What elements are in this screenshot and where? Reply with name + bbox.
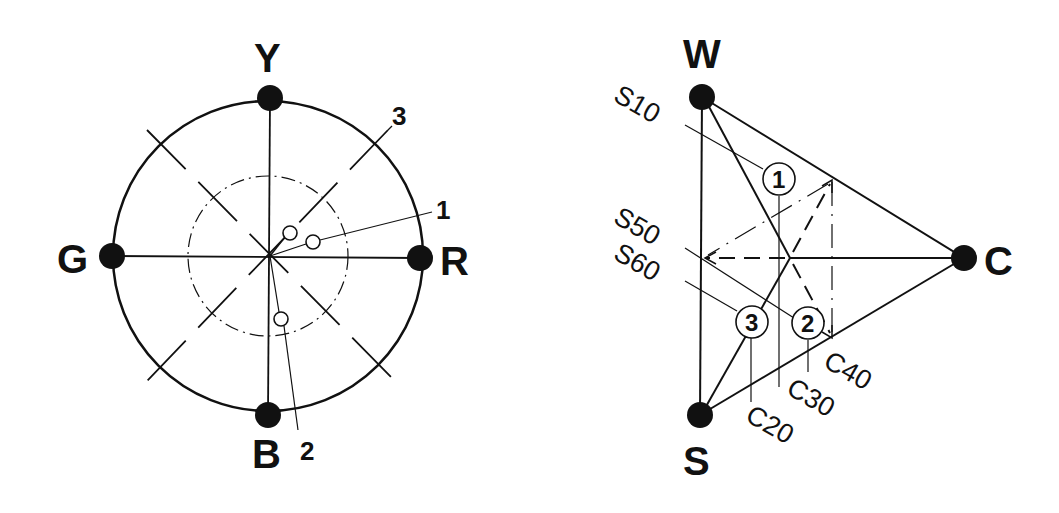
blackness-label-s10: S10 bbox=[609, 79, 666, 129]
ncs-diagram: Y G R B 1 2 3 bbox=[0, 0, 1059, 513]
point-label-3: 3 bbox=[392, 101, 406, 131]
pole-label-g: G bbox=[57, 237, 88, 281]
blackness-label-s50: S50 bbox=[609, 201, 666, 251]
vertex-label-c: C bbox=[984, 239, 1013, 283]
chromaticness-label-c40: C40 bbox=[819, 345, 877, 396]
pole-label-b: B bbox=[252, 432, 281, 476]
sample-point-2 bbox=[274, 312, 288, 326]
hue-circle bbox=[112, 98, 432, 430]
sample-point-1 bbox=[306, 235, 320, 249]
sample-point-a bbox=[283, 226, 297, 240]
chromaticness-label-c30: C30 bbox=[782, 372, 840, 423]
vertex-dot-c bbox=[951, 245, 977, 271]
vertex-label-s: S bbox=[683, 439, 710, 483]
point-label-2: 2 bbox=[300, 436, 314, 466]
vertex-dot-s bbox=[687, 402, 713, 428]
point-label-1: 1 bbox=[436, 195, 450, 225]
sample-number-3: 3 bbox=[745, 309, 758, 336]
pole-dot-r bbox=[407, 245, 433, 271]
blackness-label-s60: S60 bbox=[609, 237, 666, 287]
pole-dot-b bbox=[255, 402, 281, 428]
pole-label-r: R bbox=[440, 239, 469, 283]
sample-number-1: 1 bbox=[772, 166, 785, 193]
vertex-label-w: W bbox=[683, 32, 721, 76]
pole-dot-y bbox=[257, 85, 283, 111]
pole-dot-g bbox=[99, 243, 125, 269]
chromaticness-label-c20: C20 bbox=[741, 399, 799, 450]
vertex-dot-w bbox=[689, 84, 715, 110]
sample-number-2: 2 bbox=[801, 310, 814, 337]
pole-label-y: Y bbox=[254, 36, 281, 80]
